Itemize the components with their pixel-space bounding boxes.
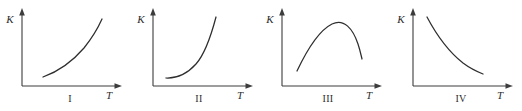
panel-ii-svg: K T II [131,0,262,111]
y-axis-label: K [265,13,274,25]
x-axis-arrow-icon [375,83,383,89]
panel-i-svg: K T I [0,0,131,111]
y-axis-arrow-icon [279,8,285,16]
curve-iii [297,22,362,71]
x-axis-label: T [237,89,244,101]
y-axis-label: K [5,13,14,25]
panel-label-ii: II [195,93,202,104]
chart-panel-i: K T I [0,0,131,111]
curve-ii [166,17,216,78]
chart-panel-iv: K T IV [391,0,522,111]
panel-label-iv: IV [455,93,467,104]
curve-i [43,19,102,77]
x-axis-arrow-icon [246,83,254,89]
x-axis-label: T [497,89,504,101]
panel-iv-svg: K T IV [391,0,522,111]
x-axis-label: T [106,89,113,101]
y-axis-arrow-icon [150,8,156,16]
y-axis-label: K [396,13,405,25]
x-axis-label: T [366,89,373,101]
chart-panel-ii: K T II [131,0,262,111]
y-axis-label: K [136,13,145,25]
y-axis-arrow-icon [410,8,416,16]
y-axis-arrow-icon [19,8,25,16]
x-axis-arrow-icon [115,83,123,89]
four-panel-curve-figure: K T I K T II K T III [0,0,522,111]
curve-iv [427,17,483,74]
x-axis-arrow-icon [506,83,514,89]
panel-label-iii: III [323,93,334,104]
panel-iii-svg: K T III [260,0,391,111]
panel-label-i: I [68,93,72,104]
chart-panel-iii: K T III [260,0,391,111]
